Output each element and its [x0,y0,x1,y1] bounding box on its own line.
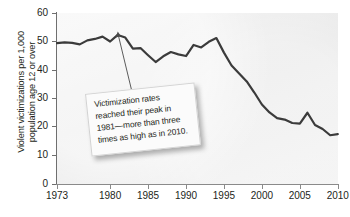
peak-callout-box: Victimization rates reached their peak i… [85,82,201,156]
peak-callout-text: Victimization rates reached their peak i… [94,89,193,146]
chart-figure: Violent victimizations per 1,000 populat… [0,0,350,217]
callout-leader-arrow [116,32,133,97]
